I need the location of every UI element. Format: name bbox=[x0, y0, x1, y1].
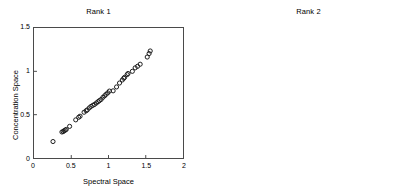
x-tick-label: 0 bbox=[18, 162, 48, 170]
chart-panel-rank-2: Rank 2 -0.4-0.200.20.40.6 -0.4-0.200.20.… bbox=[206, 0, 411, 192]
data-point bbox=[68, 124, 72, 128]
data-point bbox=[126, 71, 130, 75]
plot-area-rank-1 bbox=[33, 27, 184, 159]
scatter-plot-rank-1 bbox=[34, 28, 183, 158]
y-tick-label: 1.5 bbox=[4, 23, 30, 31]
figure-container: Rank 1 00.511.52 00.511.5 Spectral Space… bbox=[0, 0, 411, 192]
x-axis-label: Spectral Space bbox=[33, 177, 184, 186]
chart-panel-rank-1: Rank 1 00.511.52 00.511.5 Spectral Space… bbox=[0, 0, 205, 192]
x-tick-label: 1.5 bbox=[131, 162, 161, 170]
x-tick-label: 0.5 bbox=[56, 162, 86, 170]
y-tick-label: 0 bbox=[4, 155, 30, 163]
y-axis-label: Concentration Space bbox=[11, 70, 20, 140]
x-tick-label: 1 bbox=[94, 162, 124, 170]
chart-title: Rank 1 bbox=[6, 7, 191, 16]
x-tick-label: 2 bbox=[169, 162, 199, 170]
data-point bbox=[51, 139, 55, 143]
data-point bbox=[114, 85, 118, 89]
chart-title: Rank 2 bbox=[216, 7, 401, 16]
